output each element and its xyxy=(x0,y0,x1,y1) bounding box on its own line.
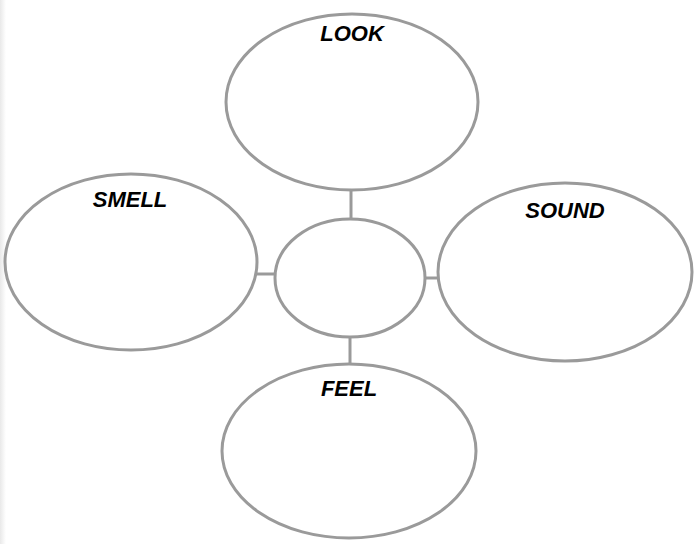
center-bubble[interactable] xyxy=(275,219,425,337)
sensory-web-diagram xyxy=(0,0,694,544)
sound-label: SOUND xyxy=(525,198,604,224)
smell-label: SMELL xyxy=(93,187,168,213)
look-label: LOOK xyxy=(320,21,384,47)
feel-label: FEEL xyxy=(321,376,377,402)
